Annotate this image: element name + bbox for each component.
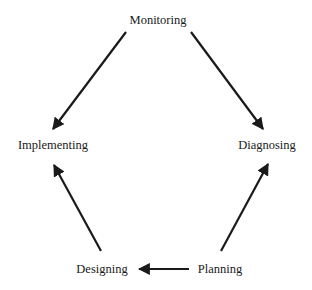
arrow-monitoring-to-implementing xyxy=(53,32,126,129)
node-implementing: Implementing xyxy=(18,138,88,152)
arrow-planning-to-diagnosing xyxy=(221,164,268,251)
cycle-diagram: Monitoring Implementing Diagnosing Desig… xyxy=(0,0,312,290)
node-planning: Planning xyxy=(198,262,242,276)
arrow-monitoring-to-diagnosing xyxy=(191,32,263,129)
arrow-designing-to-implementing xyxy=(54,165,101,251)
node-diagnosing: Diagnosing xyxy=(238,138,296,152)
node-designing: Designing xyxy=(76,262,127,276)
node-monitoring: Monitoring xyxy=(130,13,187,27)
